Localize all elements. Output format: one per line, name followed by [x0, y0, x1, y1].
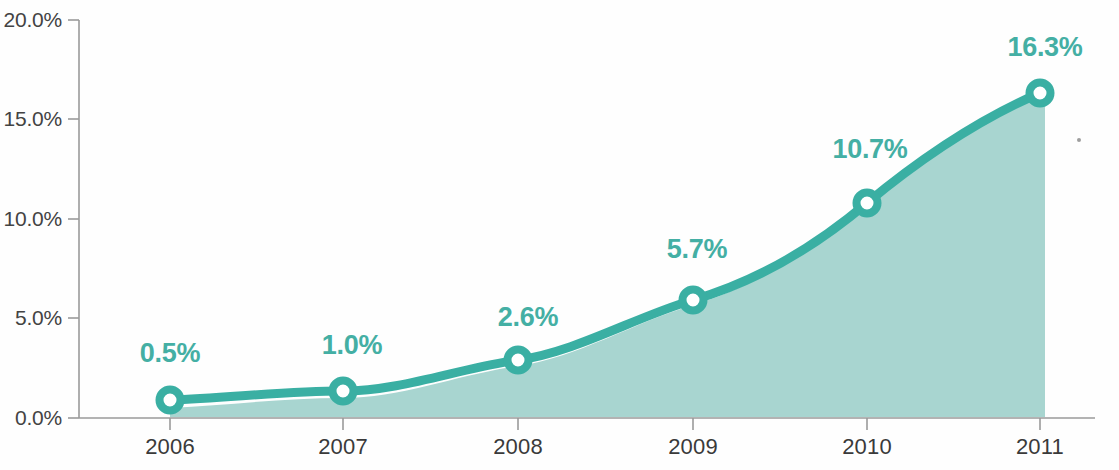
x-tick-label-2006: 2006 [110, 434, 230, 460]
y-tick-label-15: 15.0% [0, 107, 62, 131]
scan-artifact-speck [1077, 138, 1081, 142]
data-point-marker[interactable] [857, 193, 878, 214]
y-tick-label-20: 20.0% [0, 8, 62, 32]
chart-plot-area [0, 0, 1119, 470]
line-chart-figure: 20.0% 15.0% 10.0% 5.0% 0.0% 2006 2007 20… [0, 0, 1119, 470]
x-tick-label-2007: 2007 [283, 434, 403, 460]
y-tick-label-10: 10.0% [0, 207, 62, 231]
data-point-marker[interactable] [333, 381, 354, 402]
y-axis-ticks [68, 20, 79, 418]
x-axis-ticks [170, 418, 1040, 430]
x-tick-label-2009: 2009 [633, 434, 753, 460]
data-label-2007: 1.0% [292, 330, 412, 361]
data-label-2009: 5.7% [637, 234, 757, 265]
data-point-marker[interactable] [508, 350, 529, 371]
data-point-marker[interactable] [160, 390, 181, 411]
y-tick-label-0: 0.0% [0, 406, 62, 430]
data-label-2011: 16.3% [980, 32, 1110, 63]
data-label-2008: 2.6% [468, 302, 588, 333]
data-label-2006: 0.5% [110, 338, 230, 369]
data-label-2010: 10.7% [805, 134, 935, 165]
x-tick-label-2008: 2008 [458, 434, 578, 460]
data-point-marker[interactable] [1030, 83, 1051, 104]
x-tick-label-2011: 2011 [980, 434, 1100, 460]
x-tick-label-2010: 2010 [807, 434, 927, 460]
data-point-marker[interactable] [683, 290, 704, 311]
y-tick-label-5: 5.0% [0, 306, 62, 330]
